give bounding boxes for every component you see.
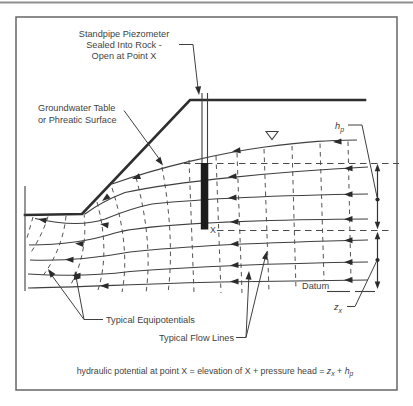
hp-leader-dot (375, 197, 379, 201)
flow-arrowhead (230, 262, 239, 268)
zx-leader-line (347, 262, 377, 307)
leader-arrowhead (262, 250, 270, 260)
equipotential (112, 188, 125, 292)
flow-arrowheads (37, 138, 352, 289)
groundwater-label-line2: or Phreatic Surface (38, 115, 117, 125)
equipotential (97, 202, 104, 290)
standpipe-sealed-section (201, 163, 209, 230)
flow-lines-leader-line (246, 254, 266, 338)
elevation-head-symbol: zx (333, 302, 343, 314)
equipotentials-label: Typical Equipotentials (106, 315, 195, 325)
flow-arrowhead (344, 277, 353, 283)
leader-arrowhead (46, 267, 56, 277)
equipotential (292, 146, 296, 290)
equipotential (136, 178, 148, 294)
standpipe-label-line1: Standpipe Piezometer (79, 29, 169, 39)
flow-arrowhead (228, 195, 237, 201)
hydraulic-potential-formula: hydraulic potential at point X = elevati… (77, 366, 354, 378)
equipotential (216, 156, 221, 293)
datum-label: Datum (302, 281, 329, 291)
flow-arrowhead (333, 138, 342, 145)
flow-arrowhead (65, 257, 74, 263)
equipotential (348, 142, 351, 281)
flow-arrowhead (344, 259, 353, 265)
flow-arrowhead (344, 237, 353, 243)
leader-arrowhead (156, 157, 166, 167)
flow-lines-label: Typical Flow Lines (159, 333, 234, 343)
datum: Datum (302, 281, 375, 292)
water-table-symbol-icon (266, 132, 278, 140)
flow-line (85, 167, 368, 214)
pressure-head-symbol: hp (335, 121, 344, 134)
dimension-lines: hp zx (333, 121, 380, 314)
flow-arrowhead (230, 219, 239, 225)
dimension-arrowhead (375, 164, 381, 172)
leader-arrowhead (195, 86, 202, 95)
annotations: Standpipe Piezometer Sealed Into Rock - … (38, 29, 270, 343)
standpipe-label-line2: Sealed Into Rock - (86, 40, 162, 50)
flow-arrowhead (344, 216, 353, 222)
flow-arrowhead (232, 147, 241, 154)
point-x-marker: X (210, 225, 216, 235)
flow-arrowhead (230, 278, 239, 284)
equipotential (42, 216, 66, 277)
dimension-arrowhead (375, 282, 381, 290)
diagram-svg: X Datum hp zx Standpipe Piezometer Seale… (0, 0, 413, 406)
flow-arrowhead (344, 191, 353, 197)
equipotential (27, 217, 33, 238)
standpipe-label-line3: Open at Point X (92, 51, 157, 61)
flow-arrowhead (228, 173, 237, 180)
leader-arrowhead (246, 271, 252, 280)
standpipe-leader-line (179, 45, 198, 92)
dimension-arrowhead (375, 232, 381, 240)
flow-net-figure: X Datum hp zx Standpipe Piezometer Seale… (0, 0, 413, 406)
dimension-arrowhead (375, 222, 381, 230)
equipotential-lines (27, 142, 351, 294)
equipotentials-leader-line (76, 274, 85, 320)
flow-arrowhead (230, 241, 239, 247)
hp-leader-line (348, 125, 377, 197)
groundwater-label-line1: Groundwater Table (38, 103, 115, 113)
equipotential (189, 160, 194, 293)
flow-arrowhead (100, 283, 109, 289)
